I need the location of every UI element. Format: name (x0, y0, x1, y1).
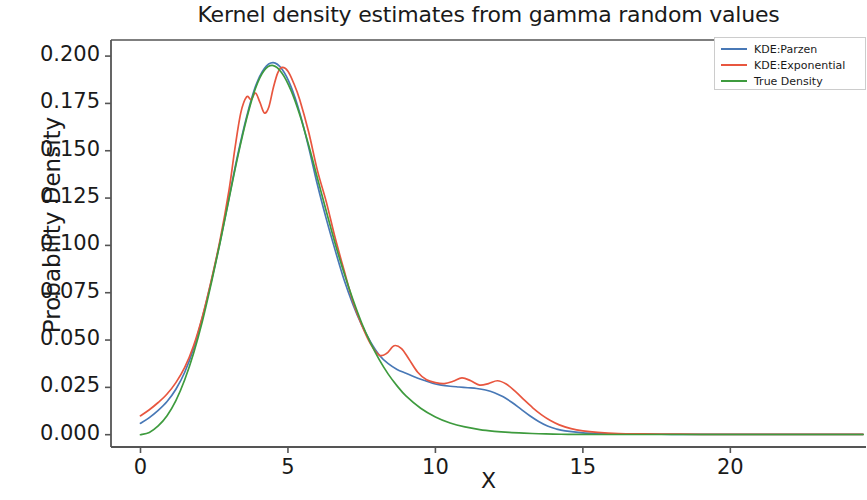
axis-ticks (105, 56, 730, 453)
legend-label-kde-parzen: KDE:Parzen (754, 43, 817, 56)
axes-spines (111, 40, 866, 447)
legend-label-true-density: True Density (754, 75, 823, 88)
legend-swatch-kde-exponential (721, 64, 747, 66)
legend-swatch-true-density (721, 80, 747, 82)
chart-legend[interactable]: KDE:Parzen KDE:Exponential True Density (714, 37, 866, 90)
data-series-group (140, 63, 863, 435)
chart-figure: Kernel density estimates from gamma rand… (0, 0, 867, 500)
legend-item-kde-parzen: KDE:Parzen (719, 41, 861, 57)
legend-item-true-density: True Density (719, 73, 861, 89)
series-line-kde-parzen (140, 63, 863, 435)
series-line-true-density (140, 65, 863, 434)
legend-item-kde-exponential: KDE:Exponential (719, 57, 861, 73)
series-line-kde-exponential (140, 67, 863, 434)
legend-swatch-kde-parzen (721, 48, 747, 50)
legend-label-kde-exponential: KDE:Exponential (754, 59, 845, 72)
